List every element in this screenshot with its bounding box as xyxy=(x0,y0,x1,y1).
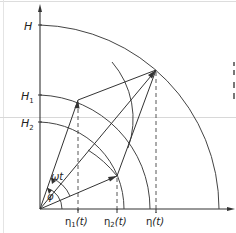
arc-H1-at-H2-tip xyxy=(88,150,117,176)
label-eta1: η1(t) xyxy=(65,216,88,229)
label-eta: η(t) xyxy=(146,216,164,227)
vector-H1-arrow-icon xyxy=(75,100,80,109)
cropped-text-fragments xyxy=(233,62,235,99)
vector-H2-arrow-icon xyxy=(108,176,117,182)
vector-H-resultant xyxy=(40,70,156,209)
label-H: H xyxy=(24,20,32,33)
label-eta2: η2(t) xyxy=(104,216,127,229)
phasor-diagram: H H1 H2 φ ωt η1(t) η2(t) η(t) xyxy=(0,0,236,233)
label-omega-t: ωt xyxy=(51,171,64,182)
vectors xyxy=(40,70,156,209)
label-H1: H1 xyxy=(21,90,34,105)
x-axis-arrow-icon xyxy=(227,207,235,211)
x-ticks xyxy=(78,209,156,213)
parallelogram-side-2 xyxy=(117,70,156,176)
label-phi: φ xyxy=(47,191,54,202)
parallelogram-side-1 xyxy=(78,70,156,100)
label-H2: H2 xyxy=(21,117,34,132)
arc-H1 xyxy=(40,95,150,209)
axes xyxy=(38,4,235,211)
y-axis-arrow-icon xyxy=(38,4,42,12)
vector-H1 xyxy=(40,100,78,209)
projections xyxy=(78,72,156,213)
